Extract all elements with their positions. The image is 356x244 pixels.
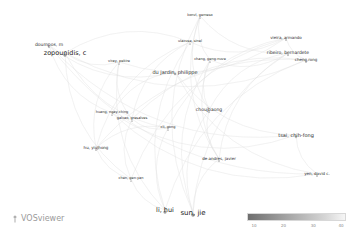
network-edge <box>219 53 288 159</box>
node-label[interactable]: sun, jie <box>180 210 205 217</box>
network-edge <box>193 159 219 213</box>
node-label[interactable]: du jardin, philippe <box>152 70 197 75</box>
vosviewer-logo-text: VOSviewer <box>21 214 64 223</box>
node-label[interactable]: vieira, armando <box>270 36 302 40</box>
node-label[interactable]: viray, pekire <box>108 60 130 64</box>
color-scale-bar <box>247 213 346 221</box>
network-edge <box>119 38 286 73</box>
node-label[interactable]: choujbaong <box>196 108 222 113</box>
network-edge <box>296 135 317 174</box>
node-label[interactable]: yen, david c. <box>304 172 330 176</box>
node-label[interactable]: zopounidis, c <box>44 50 87 57</box>
color-scale-legend: 10 20 30 40 <box>247 213 346 231</box>
network-edge <box>49 45 296 137</box>
node-label[interactable]: chen, gen-yan <box>119 177 144 181</box>
network-edge <box>124 119 132 179</box>
network-edge <box>203 60 210 110</box>
legend-tick: 30 <box>311 223 316 228</box>
node-label[interactable]: chang, geng-nuve <box>194 58 226 62</box>
network-edge <box>96 42 190 148</box>
vosviewer-logo: VOSviewer <box>12 214 64 223</box>
legend-tick: 40 <box>339 223 344 228</box>
node-label[interactable]: li, hui <box>156 207 174 214</box>
legend-tick: 20 <box>281 223 286 228</box>
network-edge <box>192 16 209 110</box>
node-label[interactable]: huang, ngay-ching <box>96 111 129 115</box>
node-label[interactable]: ribeiro, bernardete <box>267 51 309 56</box>
network-edge <box>49 45 317 174</box>
node-label[interactable]: cheng,rong <box>295 58 318 62</box>
node-label[interactable]: ulacuse, sinel <box>178 40 202 44</box>
network-edge <box>94 62 119 148</box>
node-label[interactable]: de andres, javier <box>202 157 236 161</box>
vosviewer-logo-icon <box>12 215 18 223</box>
node-label[interactable]: hu, yiujhong <box>84 146 109 150</box>
network-canvas[interactable] <box>0 0 356 244</box>
node-label[interactable]: galvao, gresalves <box>117 117 148 121</box>
network-edge <box>175 72 296 135</box>
network-edge <box>156 128 168 210</box>
legend-tick: 10 <box>251 223 256 228</box>
network-edge <box>187 110 209 213</box>
network-edge <box>190 16 219 159</box>
network-edge <box>112 113 317 178</box>
node-label[interactable]: doumpos, m <box>35 43 63 48</box>
node-label[interactable]: tsai, chih-fong <box>278 133 314 138</box>
network-edge <box>198 16 210 60</box>
node-label[interactable]: cli, gong <box>161 126 176 130</box>
network-edge <box>96 148 131 179</box>
network-edge <box>112 72 175 113</box>
node-label[interactable]: konvl, gemeso <box>187 14 212 18</box>
color-scale-ticks: 10 20 30 40 <box>247 223 346 231</box>
